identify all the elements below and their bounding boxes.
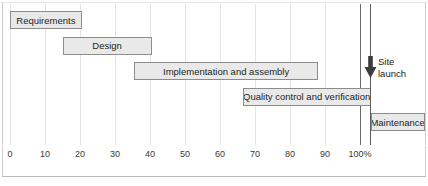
gantt-chart-figure: RequirementsDesignImplementation and ass… — [0, 0, 428, 186]
x-tick-label-0: 0 — [7, 149, 12, 160]
gridline-90 — [325, 4, 326, 145]
x-tick-label-70: 70 — [250, 149, 260, 160]
task-bar[interactable]: Requirements — [10, 11, 82, 29]
x-tick-label-40: 40 — [145, 149, 155, 160]
x-tick-label-20: 20 — [75, 149, 85, 160]
x-tick-label-30: 30 — [110, 149, 120, 160]
milestone-label: Site launch — [378, 56, 406, 79]
x-tick-label-100: 100% — [348, 149, 371, 160]
x-tick-label-80: 80 — [285, 149, 295, 160]
task-bar[interactable]: Implementation and assembly — [134, 62, 318, 80]
task-bar-label: Maintenance — [371, 117, 425, 128]
task-bar[interactable]: Quality control and verification — [243, 88, 371, 106]
x-tick-label-10: 10 — [40, 149, 50, 160]
figure-frame-bottom — [2, 176, 426, 177]
task-bar-label: Design — [92, 40, 122, 51]
task-bar[interactable]: Maintenance — [371, 113, 425, 131]
task-bar[interactable]: Design — [63, 37, 152, 55]
figure-frame-right — [425, 2, 426, 176]
x-tick-label-60: 60 — [215, 149, 225, 160]
x-tick-label-50: 50 — [180, 149, 190, 160]
milestone-down-arrow-icon — [363, 56, 378, 78]
cropped-text-artifact — [14, 0, 84, 2]
task-bar-label: Quality control and verification — [243, 91, 370, 102]
task-bar-label: Implementation and assembly — [163, 66, 289, 77]
gridline-100 — [360, 4, 361, 145]
x-axis-line — [2, 145, 426, 146]
task-bar-label: Requirements — [16, 15, 75, 26]
milestone-label-line1: Site — [378, 56, 406, 68]
milestone-label-line2: launch — [378, 68, 406, 80]
gridline-30 — [115, 4, 116, 145]
figure-frame-left — [2, 2, 3, 176]
x-tick-label-90: 90 — [320, 149, 330, 160]
plot-area: RequirementsDesignImplementation and ass… — [10, 4, 400, 145]
figure-frame-top — [2, 2, 426, 3]
